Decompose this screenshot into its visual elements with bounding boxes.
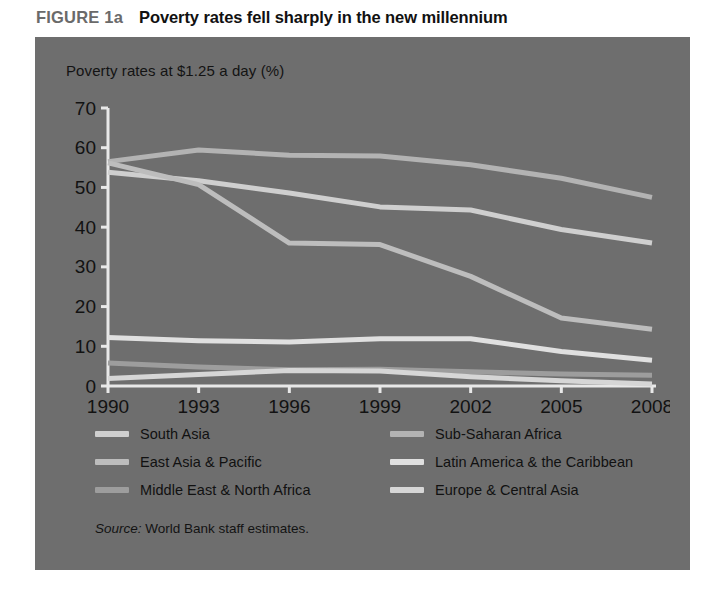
legend-label-middle-east-north-africa: Middle East & North Africa [140,482,311,498]
legend-label-europe-central-asia: Europe & Central Asia [435,482,579,498]
legend-swatch-south-asia [95,431,129,437]
x-axis-tick-label: 1990 [87,396,129,417]
figure-number: FIGURE 1a [36,8,123,27]
y-axis-tick-label: 20 [75,296,96,317]
chart-panel: Poverty rates at $1.25 a day (%) 0102030… [35,37,690,570]
x-axis-tick-label: 1993 [178,396,220,417]
y-axis-tick-label: 50 [75,177,96,198]
legend-item-europe-central-asia: Europe & Central Asia [390,482,670,498]
series-line [108,163,652,329]
y-axis-tick-label: 30 [75,256,96,277]
y-axis-tick-label: 40 [75,217,96,238]
legend-item-south-asia: South Asia [95,426,390,442]
y-axis-tick-label: 60 [75,137,96,158]
legend-swatch-europe-central-asia [390,487,424,493]
y-axis-tick-label: 10 [75,336,96,357]
legend-label-latin-america-caribbean: Latin America & the Caribbean [435,454,633,470]
x-axis-tick-label: 2005 [540,396,582,417]
legend-label-east-asia-pacific: East Asia & Pacific [140,454,262,470]
source-label: Source: [95,521,142,536]
y-axis-tick-label: 0 [85,376,96,397]
x-axis-tick-label: 2002 [450,396,492,417]
figure-container: FIGURE 1a Poverty rates fell sharply in … [0,0,724,600]
legend-item-sub-saharan-africa: Sub-Saharan Africa [390,426,670,442]
x-axis-tick-label: 1999 [359,396,401,417]
figure-header: FIGURE 1a Poverty rates fell sharply in … [36,2,696,32]
legend-label-sub-saharan-africa: Sub-Saharan Africa [435,426,562,442]
source-value: World Bank staff estimates. [142,521,310,536]
series-line [108,338,652,361]
chart-legend: South Asia Sub-Saharan Africa East Asia … [95,420,670,504]
legend-swatch-sub-saharan-africa [390,431,424,437]
y-axis-tick-label: 70 [75,102,96,119]
chart-svg: 0102030405060701990199319961999200220052… [60,102,670,432]
figure-title: Poverty rates fell sharply in the new mi… [139,8,507,27]
legend-swatch-east-asia-pacific [95,459,129,465]
source-note: Source: World Bank staff estimates. [95,521,309,536]
x-axis-tick-label: 1996 [268,396,310,417]
x-axis-tick-label: 2008 [631,396,670,417]
legend-swatch-latin-america-caribbean [390,459,424,465]
legend-swatch-middle-east-north-africa [95,487,129,493]
series-line [108,150,652,197]
legend-item-middle-east-north-africa: Middle East & North Africa [95,482,390,498]
legend-item-east-asia-pacific: East Asia & Pacific [95,454,390,470]
legend-label-south-asia: South Asia [140,426,210,442]
line-chart-plot: 0102030405060701990199319961999200220052… [60,102,670,432]
legend-item-latin-america-caribbean: Latin America & the Caribbean [390,454,670,470]
chart-subtitle: Poverty rates at $1.25 a day (%) [66,62,284,79]
